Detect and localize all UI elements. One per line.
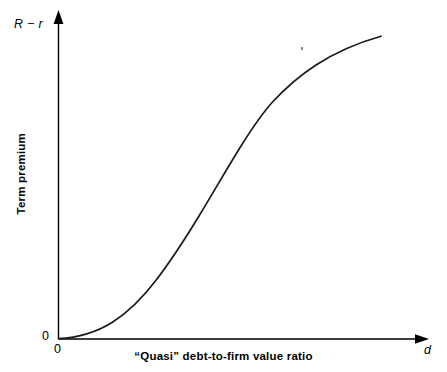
x-axis-title: “Quasi” debt-to-firm value ratio <box>0 351 447 363</box>
y-axis-variable-label: R − r <box>14 18 43 31</box>
y-axis-arrowhead-icon <box>54 10 64 24</box>
term-premium-curve <box>59 36 382 338</box>
chart-figure: R − r d 0 0 Term premium “Quasi” debt-to… <box>0 0 447 372</box>
y-axis-title: Term premium <box>16 114 28 234</box>
y-axis-origin-tick-label: 0 <box>42 330 49 343</box>
chart-canvas <box>0 0 447 372</box>
scan-speck <box>301 47 303 50</box>
